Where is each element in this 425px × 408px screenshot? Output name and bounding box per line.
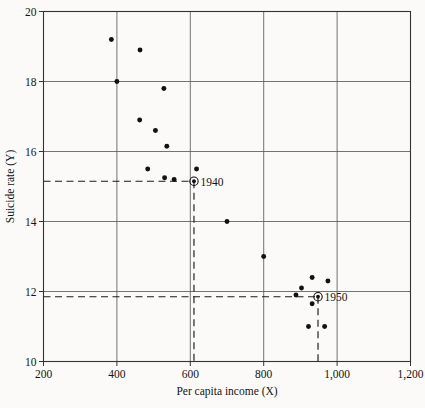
y-tick-label-14: 14 (25, 216, 37, 228)
scatter-plot-figure: 1012141618202004006008001,0001,200Per ca… (0, 0, 425, 408)
data-point (225, 219, 230, 224)
plot-frame (44, 12, 411, 362)
annotation-label-1950: 1950 (325, 291, 348, 303)
data-point (162, 175, 167, 180)
x-tick-label-200: 200 (35, 368, 53, 380)
y-tick-label-16: 16 (25, 146, 37, 158)
y-tick-label-12: 12 (25, 286, 37, 298)
data-point (172, 177, 177, 182)
y-tick-label-18: 18 (25, 76, 37, 88)
data-point (161, 86, 166, 91)
data-point (153, 128, 158, 133)
annotation-label-1940: 1940 (200, 176, 223, 188)
data-point (164, 144, 169, 149)
y-axis-title: Suicide rate (Y) (4, 150, 17, 224)
annotation-marker-dot-1950 (316, 295, 320, 299)
x-tick-label-1000: 1,000 (324, 368, 350, 381)
x-axis-title: Per capita income (X) (176, 385, 277, 398)
data-point (299, 286, 304, 291)
plot-canvas: 1012141618202004006008001,0001,200Per ca… (0, 0, 425, 408)
x-tick-label-1200: 1,200 (398, 368, 424, 381)
x-tick-label-800: 800 (255, 368, 273, 380)
annotation-marker-dot-1940 (192, 179, 196, 183)
data-point (310, 275, 315, 280)
x-tick-label-400: 400 (108, 368, 126, 380)
data-point (306, 324, 311, 329)
data-point (294, 293, 299, 298)
data-point (109, 37, 114, 42)
x-tick-label-600: 600 (182, 368, 200, 380)
y-tick-label-10: 10 (25, 356, 37, 368)
data-point (325, 279, 330, 284)
data-point (138, 48, 143, 53)
data-point (137, 118, 142, 123)
y-tick-label-20: 20 (25, 6, 37, 18)
data-point (194, 167, 199, 172)
data-point (114, 79, 119, 84)
data-point (261, 254, 266, 259)
data-point (145, 167, 150, 172)
data-point (310, 301, 315, 306)
data-point (322, 324, 327, 329)
